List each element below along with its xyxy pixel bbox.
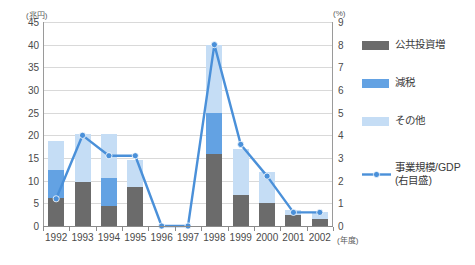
y-axis-left-tick-label: 10 (13, 177, 39, 187)
y-axis-left-tick-label: 35 (13, 63, 39, 73)
x-axis-tick-label: 1992 (45, 232, 67, 243)
y-axis-left-tick-label: 0 (13, 222, 39, 232)
x-axis-tick (43, 227, 44, 231)
y-axis-left-tick-label: 25 (13, 109, 39, 119)
x-axis-tick-label: 1993 (71, 232, 93, 243)
legend-item[interactable]: その他 (362, 114, 474, 152)
y-axis-left-tick-label: 40 (13, 41, 39, 51)
x-axis-tick-label: 2000 (256, 232, 278, 243)
x-axis-tick (148, 227, 149, 231)
x-axis-tick (228, 227, 229, 231)
y-axis-right-tick-label: 9 (338, 18, 360, 28)
y-axis-right-tick-label: 4 (338, 131, 360, 141)
legend-label: 事業規模/GDP(右目盛) (395, 161, 475, 187)
y-axis-left-tick-label: 15 (13, 154, 39, 164)
chart-legend: 公共投資増減税その他事業規模/GDP(右目盛) (362, 38, 474, 162)
x-axis-tick-label: 2002 (309, 232, 331, 243)
x-axis-tick-label: 1998 (203, 232, 225, 243)
chart-container: (兆円) (%) 051015202530354045 0123456789 1… (0, 0, 475, 265)
line-data-point[interactable] (53, 196, 59, 202)
y-axis-left-tick-label: 5 (13, 199, 39, 209)
y-axis-left-tick-label: 20 (13, 131, 39, 141)
line-data-point[interactable] (290, 209, 296, 215)
x-axis-tick-label: 1994 (98, 232, 120, 243)
x-axis-tick (175, 227, 176, 231)
legend-swatch-icon (362, 79, 389, 88)
x-axis-tick-label: 1999 (230, 232, 252, 243)
x-axis-tick-label: 2001 (282, 232, 304, 243)
y-axis-right-tick-label: 3 (338, 154, 360, 164)
line-path (56, 45, 320, 226)
line-data-point[interactable] (264, 173, 270, 179)
line-data-point[interactable] (317, 209, 323, 215)
x-axis-tick (69, 227, 70, 231)
y-axis-left-tick-label: 30 (13, 86, 39, 96)
line-data-point[interactable] (211, 42, 217, 48)
y-axis-right-tick-label: 0 (338, 222, 360, 232)
legend-line-marker-icon (362, 165, 391, 174)
y-axis-right-tick-label: 2 (338, 177, 360, 187)
y-axis-right-tick-label: 6 (338, 86, 360, 96)
x-axis-tick (96, 227, 97, 231)
legend-swatch-icon (362, 117, 389, 126)
legend-label: その他 (395, 114, 425, 127)
y-axis-left-line (43, 22, 44, 227)
y-axis-right-tick-label: 8 (338, 41, 360, 51)
x-axis-tick-label: 1996 (151, 232, 173, 243)
x-axis-tick-label: 1995 (124, 232, 146, 243)
y-axis-left-tick-label: 45 (13, 18, 39, 28)
legend-label: 公共投資増 (395, 38, 445, 51)
x-axis-tick (307, 227, 308, 231)
x-axis-tick (201, 227, 202, 231)
x-axis-tick (333, 227, 334, 231)
legend-label: 減税 (395, 76, 415, 89)
y-axis-left-ticks: 051015202530354045 (13, 22, 39, 227)
plot-area (43, 22, 333, 227)
y-axis-right-line (332, 22, 333, 227)
y-axis-right-tick-label: 5 (338, 109, 360, 119)
y-axis-right-tick-label: 7 (338, 63, 360, 73)
legend-item[interactable]: 減税 (362, 76, 474, 114)
x-axis-tick-label: 1997 (177, 232, 199, 243)
line-data-point[interactable] (106, 153, 112, 159)
line-data-point[interactable] (132, 153, 138, 159)
legend-item[interactable]: 公共投資増 (362, 38, 474, 76)
line-series-layer (43, 22, 333, 227)
legend-swatch-icon (362, 41, 389, 50)
line-data-point[interactable] (238, 141, 244, 147)
y-axis-right-tick-label: 1 (338, 199, 360, 209)
x-axis-unit: (年度) (337, 234, 358, 245)
y-axis-right-ticks: 0123456789 (338, 22, 360, 227)
x-axis-line (43, 226, 333, 227)
line-data-point[interactable] (79, 132, 85, 138)
x-axis-tick (254, 227, 255, 231)
x-axis-tick (122, 227, 123, 231)
x-axis-tick (280, 227, 281, 231)
